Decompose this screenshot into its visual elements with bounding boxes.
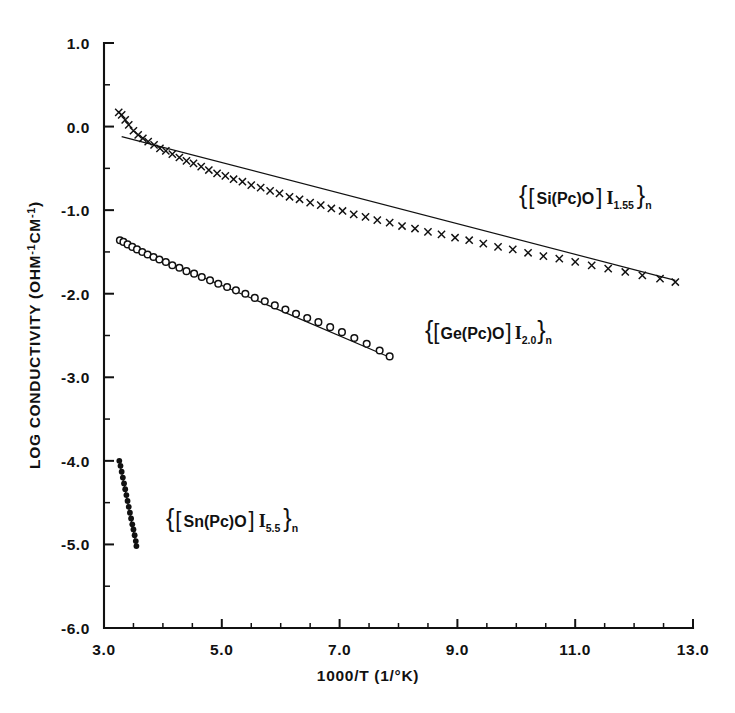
marker-circle — [304, 315, 311, 322]
marker-x — [190, 160, 197, 167]
conductivity-chart-figure: 3.05.07.09.011.013.0 1.00.0-1.0-2.0-3.0-… — [0, 0, 735, 713]
marker-x — [451, 234, 458, 241]
marker-dot — [125, 498, 131, 504]
marker-circle — [163, 259, 170, 266]
marker-circle — [215, 280, 222, 287]
marker-x — [605, 265, 612, 272]
marker-dot — [120, 475, 126, 481]
marker-x — [183, 157, 190, 164]
marker-circle — [376, 347, 383, 354]
marker-x — [118, 111, 125, 118]
marker-dot — [132, 532, 138, 538]
marker-circle — [224, 284, 231, 291]
marker-x — [509, 246, 516, 253]
marker-dot — [119, 469, 125, 475]
marker-x — [276, 190, 283, 197]
marker-circle — [363, 341, 370, 348]
marker-x — [296, 196, 303, 203]
marker-dot — [133, 538, 139, 544]
marker-dot — [116, 458, 122, 464]
marker-x — [248, 181, 255, 188]
marker-x — [317, 202, 324, 209]
marker-x — [350, 211, 357, 218]
marker-x — [362, 213, 369, 220]
marker-x — [198, 163, 205, 170]
series-si — [115, 109, 679, 286]
marker-dot — [122, 486, 128, 492]
marker-x — [438, 231, 445, 238]
marker-x — [125, 121, 132, 128]
marker-x — [257, 184, 264, 191]
marker-x — [135, 131, 142, 138]
marker-dot — [127, 510, 133, 516]
marker-dot — [128, 516, 134, 522]
marker-dot — [123, 492, 129, 498]
marker-circle — [183, 268, 190, 275]
marker-x — [572, 258, 579, 265]
marker-dot — [126, 504, 132, 510]
marker-circle — [251, 295, 258, 302]
marker-x — [540, 253, 547, 260]
marker-x — [524, 249, 531, 256]
marker-circle — [198, 274, 205, 281]
series-sn — [116, 458, 139, 549]
marker-x — [122, 116, 129, 123]
marker-circle — [282, 306, 289, 313]
marker-circle — [293, 310, 300, 317]
marker-x — [494, 243, 501, 250]
marker-x — [424, 228, 431, 235]
marker-x — [222, 172, 229, 179]
marker-x — [176, 154, 183, 161]
marker-x — [307, 199, 314, 206]
marker-circle — [156, 256, 163, 263]
marker-x — [556, 255, 563, 262]
marker-x — [398, 222, 405, 229]
marker-circle — [176, 265, 183, 272]
marker-x — [588, 262, 595, 269]
marker-x — [672, 278, 679, 285]
marker-x — [374, 217, 381, 224]
marker-x — [639, 272, 646, 279]
plot-canvas — [0, 0, 735, 713]
marker-x — [286, 193, 293, 200]
marker-circle — [207, 277, 214, 284]
axis-spines — [104, 43, 693, 628]
marker-x — [169, 151, 176, 158]
marker-circle — [315, 319, 322, 326]
data-series-group — [115, 109, 679, 549]
marker-circle — [351, 335, 358, 342]
marker-dot — [131, 526, 137, 532]
marker-circle — [233, 287, 240, 294]
marker-dot — [118, 463, 124, 469]
marker-circle — [261, 298, 268, 305]
marker-dot — [121, 481, 127, 487]
marker-x — [339, 207, 346, 214]
marker-x — [622, 268, 629, 275]
series-ge — [117, 237, 393, 360]
marker-x — [386, 219, 393, 226]
marker-x — [411, 225, 418, 232]
marker-circle — [191, 270, 198, 277]
marker-x — [213, 170, 220, 177]
marker-x — [480, 240, 487, 247]
marker-x — [466, 237, 473, 244]
marker-x — [230, 176, 237, 183]
marker-circle — [339, 329, 346, 336]
marker-dot — [129, 521, 135, 527]
marker-x — [266, 187, 273, 194]
marker-circle — [272, 302, 279, 309]
axes-group — [104, 43, 693, 628]
fit-line-0 — [122, 137, 676, 281]
marker-circle — [386, 353, 393, 360]
marker-x — [205, 166, 212, 173]
marker-circle — [327, 324, 334, 331]
marker-dot — [133, 543, 139, 549]
marker-x — [328, 205, 335, 212]
marker-circle — [169, 262, 176, 269]
marker-circle — [242, 290, 249, 297]
marker-x — [239, 178, 246, 185]
